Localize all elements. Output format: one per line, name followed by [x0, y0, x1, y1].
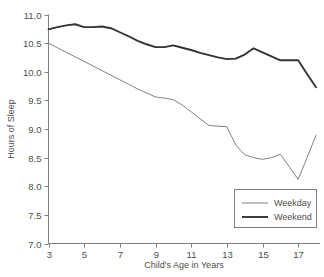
- x-tick-label: 15: [258, 249, 269, 260]
- y-tick-label: 8.0: [28, 181, 41, 192]
- data-series-group: [49, 24, 317, 179]
- y-axis-tick-labels: 7.07.58.08.59.09.510.010.511.0: [23, 10, 42, 250]
- x-axis-title: Child's Age in Years: [144, 260, 224, 270]
- line-chart: 7.07.58.08.59.09.510.010.511.0 357911131…: [0, 0, 324, 277]
- series-line-weekday: [49, 43, 317, 179]
- x-tick-label: 17: [293, 249, 304, 260]
- x-axis-tick-labels: 357911131517: [47, 249, 304, 260]
- y-tick-label: 10.5: [23, 38, 42, 49]
- chart-figure: 7.07.58.08.59.09.510.010.511.0 357911131…: [0, 0, 324, 277]
- y-axis-ticks: [45, 16, 49, 245]
- legend-label-weekday: Weekday: [274, 198, 312, 208]
- x-tick-label: 5: [82, 249, 87, 260]
- x-tick-label: 11: [187, 249, 197, 260]
- x-tick-label: 3: [47, 249, 52, 260]
- x-tick-label: 7: [118, 249, 123, 260]
- y-tick-label: 7.0: [28, 239, 41, 250]
- y-tick-label: 8.5: [28, 153, 41, 164]
- y-tick-label: 10.0: [23, 67, 42, 78]
- y-axis-title: Hours of Sleep: [6, 99, 16, 159]
- legend: Weekday Weekend: [235, 190, 317, 228]
- x-tick-label: 13: [222, 249, 233, 260]
- legend-label-weekend: Weekend: [274, 212, 312, 222]
- series-line-weekend: [49, 24, 317, 87]
- x-tick-label: 9: [154, 249, 159, 260]
- y-tick-label: 11.0: [24, 10, 42, 21]
- y-tick-label: 9.5: [28, 95, 41, 106]
- y-tick-label: 9.0: [28, 124, 41, 135]
- x-axis-ticks: [50, 244, 299, 248]
- y-tick-label: 7.5: [28, 210, 41, 221]
